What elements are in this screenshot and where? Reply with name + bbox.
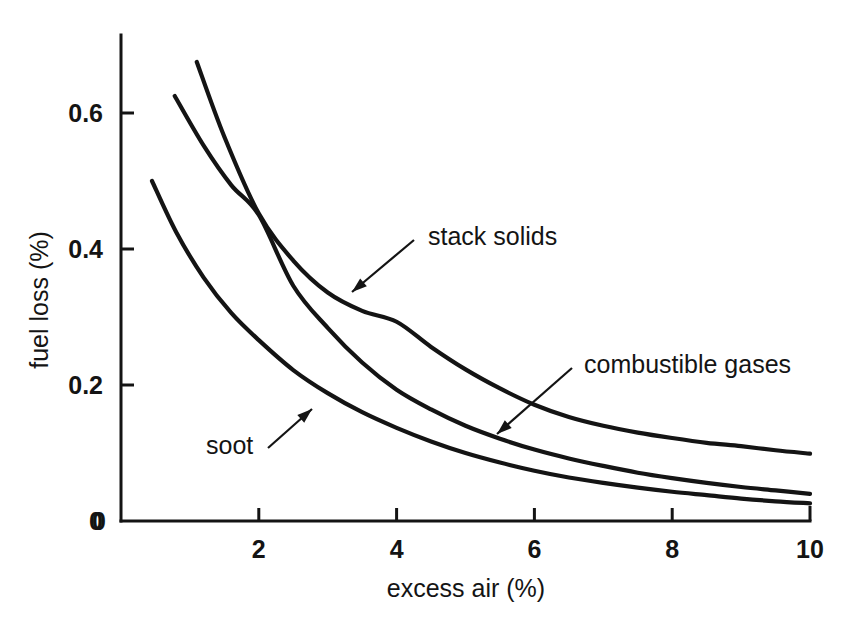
x-axis-title: excess air (%) (387, 574, 545, 602)
x-tick-label: 10 (796, 535, 824, 563)
annotation-label-stack-solids: stack solids (428, 222, 557, 250)
series-annotations-group: stack solidscombustible gasessoot (206, 222, 791, 459)
series-curve-combustible-gases (175, 96, 810, 494)
chart-figure: 00.20.40.6 0246810 stack solidscombustib… (0, 0, 864, 617)
x-tick-label: 6 (527, 535, 541, 563)
y-tick-label: 0.6 (68, 99, 103, 127)
y-tick-label: 0.4 (68, 235, 103, 263)
x-axis-ticks: 0246810 (92, 506, 824, 563)
series-curve-stack-solids (197, 62, 810, 454)
x-tick-label: 4 (390, 535, 404, 563)
x-tick-label: 0 (92, 507, 106, 535)
y-axis-title: fuel loss (%) (25, 231, 53, 369)
y-tick-label: 0.2 (68, 371, 103, 399)
y-axis-ticks: 00.20.40.6 (68, 99, 134, 535)
annotation-label-soot: soot (206, 431, 253, 459)
x-tick-label: 2 (252, 535, 266, 563)
chart-canvas: 00.20.40.6 0246810 stack solidscombustib… (0, 0, 864, 617)
annotation-label-combustible-gases: combustible gases (584, 350, 791, 378)
x-tick-label: 8 (665, 535, 679, 563)
